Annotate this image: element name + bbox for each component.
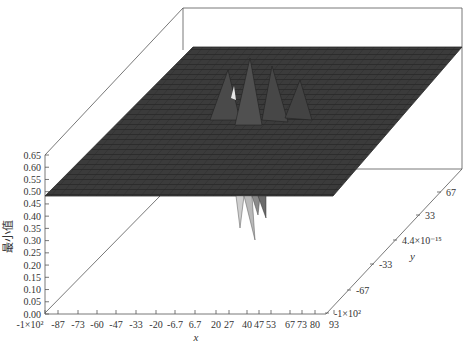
x-tick-label: -1×10² — [17, 319, 44, 330]
y-axis-title: y — [409, 250, 415, 262]
x-tick-label: 47 — [254, 319, 264, 330]
x-axis-title: x — [193, 331, 199, 343]
z-tick-label: 0.45 — [24, 198, 42, 209]
y-tick-label: 4.4×10⁻¹⁵ — [402, 235, 442, 246]
x-tick-label: 20 — [211, 319, 221, 330]
z-tick-label: 0.55 — [24, 174, 42, 185]
z-tick-label: 0.30 — [24, 235, 42, 246]
y-tick-label: -33 — [379, 259, 392, 270]
x-tick-label: 40 — [242, 319, 252, 330]
z-tick-label: 0.00 — [24, 309, 42, 320]
z-tick-label: 0.35 — [24, 223, 42, 234]
x-tick-label: 80 — [310, 319, 320, 330]
z-tick-label: 0.40 — [24, 211, 42, 222]
y-tick-label: -67 — [356, 285, 369, 296]
y-tick-label: 67 — [446, 187, 456, 198]
y-axis: -1×10²-67-334.4×10⁻¹⁵3367 y — [325, 169, 462, 319]
x-tick-label: -6.7 — [167, 319, 183, 330]
surface-chart: 0.000.050.100.150.200.250.300.350.400.45… — [0, 0, 470, 346]
y-tick-label: 33 — [425, 210, 435, 221]
z-tick-label: 0.50 — [24, 186, 42, 197]
x-axis: -1×10²-87-73-60-47-33-20-6.76.7202740475… — [17, 310, 339, 343]
z-tick-label: 0.05 — [24, 296, 42, 307]
x-tick-label: -73 — [71, 319, 84, 330]
x-tick-label: -60 — [90, 319, 103, 330]
x-tick-label: -47 — [109, 319, 122, 330]
x-tick-label: 53 — [266, 319, 276, 330]
x-tick-label: -33 — [129, 319, 142, 330]
z-tick-label: 0.65 — [24, 150, 42, 161]
x-tick-label: 93 — [329, 319, 339, 330]
x-tick-label: 67 — [285, 319, 295, 330]
x-tick-label: 73 — [297, 319, 307, 330]
z-tick-label: 0.15 — [24, 272, 42, 283]
x-tick-label: -20 — [149, 319, 162, 330]
z-axis: 0.000.050.100.150.200.250.300.350.400.45… — [24, 150, 50, 320]
x-tick-label: -87 — [51, 319, 64, 330]
y-tick-label: -1×10² — [334, 308, 361, 319]
x-tick-label: 6.7 — [189, 319, 202, 330]
z-tick-label: 0.10 — [24, 284, 42, 295]
z-tick-label: 0.20 — [24, 260, 42, 271]
z-tick-label: 0.25 — [24, 247, 42, 258]
z-axis-title: 最小值 — [2, 220, 14, 253]
x-tick-label: 27 — [224, 319, 234, 330]
z-tick-label: 0.60 — [24, 162, 42, 173]
surface-mesh — [45, 47, 462, 240]
